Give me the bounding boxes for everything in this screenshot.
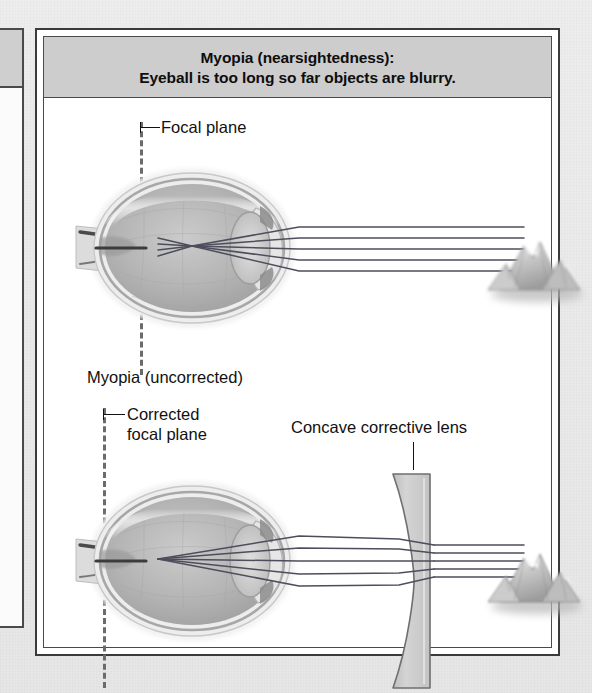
label-corrected-focal-plane-line-2: focal plane xyxy=(127,425,207,444)
figure-title-bar: Myopia (nearsightedness): Eyeball is too… xyxy=(43,36,552,98)
focal-plane-leader-line-bottom xyxy=(103,414,125,415)
label-corrected-focal-plane-line-1: Corrected xyxy=(127,405,199,424)
concave-lens-leader-tick xyxy=(413,442,414,470)
label-myopia-uncorrected: Myopia (uncorrected) xyxy=(87,368,243,387)
figure-body: Focal plane xyxy=(43,98,552,648)
figure-title-line-2: Eyeball is too long so far objects are b… xyxy=(139,68,455,87)
adjacent-figure-panel-stub xyxy=(0,28,24,628)
adjacent-figure-title-bar xyxy=(0,30,22,88)
label-focal-plane: Focal plane xyxy=(161,118,246,137)
distant-object-mountain-uncorrected xyxy=(484,218,590,310)
light-rays-corrected xyxy=(84,473,534,648)
myopia-figure-card: Myopia (nearsightedness): Eyeball is too… xyxy=(35,28,560,656)
figure-title-line-1: Myopia (nearsightedness): xyxy=(201,48,395,67)
light-rays-uncorrected xyxy=(84,160,534,335)
label-concave-corrective-lens: Concave corrective lens xyxy=(291,418,467,437)
focal-plane-leader-line-top xyxy=(140,127,160,128)
distant-object-mountain-corrected xyxy=(484,530,590,622)
